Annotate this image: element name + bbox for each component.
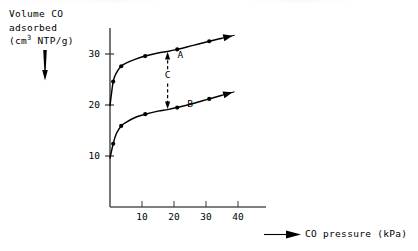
adsorption-isotherm-chart: 102030 10203040 AB C — [0, 0, 418, 251]
data-point — [207, 39, 211, 43]
chart-series-layer: AB — [110, 34, 235, 158]
data-point — [111, 79, 115, 83]
data-point — [175, 105, 179, 109]
annotation-arrowhead-bottom — [165, 102, 170, 110]
chart-annotation-layer: C — [163, 52, 173, 109]
data-point — [111, 142, 115, 146]
data-point — [143, 54, 147, 58]
series-arrowhead-B — [222, 91, 232, 98]
data-point — [119, 64, 123, 68]
annotation-arrowhead-top — [165, 52, 170, 60]
y-tick-label: 30 — [89, 48, 101, 59]
x-tick-label: 40 — [232, 211, 244, 222]
y-tick-label: 20 — [89, 99, 101, 110]
x-axis-ticks: 10203040 — [136, 201, 244, 222]
series-label-A: A — [178, 49, 184, 60]
data-point — [207, 97, 211, 101]
annotation-label-C: C — [165, 69, 171, 80]
data-point — [143, 112, 147, 116]
series-line-B — [110, 95, 222, 158]
series-A: A — [110, 34, 235, 105]
y-tick-label: 10 — [89, 150, 101, 161]
data-point — [119, 124, 123, 128]
x-tick-label: 10 — [136, 211, 148, 222]
series-B: B — [110, 91, 235, 158]
series-arrowhead-A — [223, 34, 233, 41]
annotation-C: C — [163, 52, 173, 109]
x-tick-label: 30 — [200, 211, 212, 222]
series-label-B: B — [187, 98, 193, 109]
x-tick-label: 20 — [168, 211, 180, 222]
